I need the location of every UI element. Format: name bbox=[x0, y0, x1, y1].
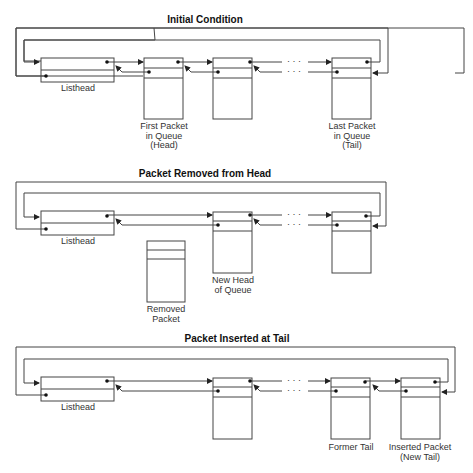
first-packet-label: First Packet in Queue (Head) bbox=[140, 122, 188, 151]
panel-initial-condition bbox=[16, 28, 464, 119]
ellipsis: · · · bbox=[287, 209, 301, 219]
last-packet-label: Last Packet in Queue (Tail) bbox=[328, 122, 375, 151]
panel-title: Packet Inserted at Tail bbox=[185, 333, 290, 344]
listhead-label: Listhead bbox=[61, 403, 95, 413]
new-head-label: New Head of Queue bbox=[212, 276, 254, 295]
panel-title: Initial Condition bbox=[167, 14, 243, 25]
ellipsis: · · · bbox=[287, 375, 301, 385]
removed-packet-label: Removed Packet bbox=[147, 305, 186, 324]
ellipsis: · · · bbox=[287, 56, 301, 66]
ellipsis: · · · bbox=[287, 219, 301, 229]
former-tail-label: Former Tail bbox=[329, 443, 374, 453]
listhead-label: Listhead bbox=[61, 237, 95, 247]
ellipsis: · · · bbox=[287, 385, 301, 395]
panel-inserted-at-tail bbox=[16, 347, 455, 439]
panel-title: Packet Removed from Head bbox=[139, 168, 271, 179]
ellipsis: · · · bbox=[287, 66, 301, 76]
inserted-packet-label: Inserted Packet (New Tail) bbox=[389, 443, 452, 462]
listhead-label: Listhead bbox=[61, 84, 95, 94]
